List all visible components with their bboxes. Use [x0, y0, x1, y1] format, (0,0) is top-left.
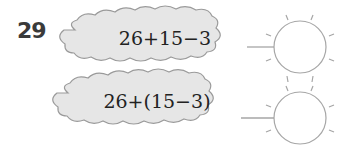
expression-2: 26+(15−3): [62, 90, 252, 112]
expression-1: 26+15−3: [70, 27, 260, 49]
answer-circle-1[interactable]: [274, 21, 326, 73]
answer-circle-2[interactable]: [274, 92, 326, 144]
